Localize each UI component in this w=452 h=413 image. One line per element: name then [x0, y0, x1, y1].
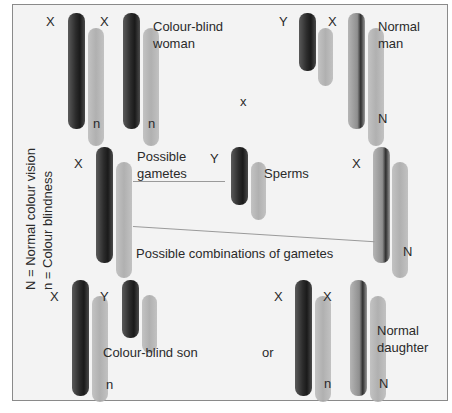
father-y-label: Y [279, 14, 288, 29]
cross-symbol: x [240, 94, 247, 109]
sperms-label: Sperms [264, 166, 309, 181]
son-x-allele: n [106, 377, 113, 392]
sperm-x-sister-chromatid [392, 162, 408, 278]
daughter-x1-label: X [274, 289, 283, 304]
daughter-x1-allele: n [324, 376, 331, 391]
father-x-label: X [328, 14, 337, 29]
daughter-label: Normal daughter [377, 322, 428, 356]
mother-x2-chromosome [123, 13, 140, 129]
mother-x2-label: X [100, 14, 109, 29]
daughter-x2-label: X [323, 289, 332, 304]
mother-x1-allele: n [93, 116, 100, 131]
sperm-x-allele: N [403, 244, 412, 259]
mother-label: Colour-blind woman [153, 18, 223, 52]
mother-x1-chromosome [68, 13, 85, 129]
egg-x-sister-chromatid [116, 162, 132, 278]
son-x-label: X [50, 289, 59, 304]
father-y-sister-chromatid [318, 28, 333, 86]
mother-x1-label: X [46, 14, 55, 29]
legend-normal: N = Normal colour vision [22, 148, 39, 290]
mother-x2-allele: n [148, 116, 155, 131]
daughter-x1-chromosome [295, 280, 312, 396]
sperm-x-label: X [352, 156, 361, 171]
possible-combinations-label: Possible combinations of gametes [136, 246, 333, 261]
son-x-chromosome [72, 280, 89, 396]
daughter-x2-allele: N [379, 376, 388, 391]
daughter-x2-chromosome [350, 280, 367, 396]
father-x-chromosome [348, 13, 365, 129]
sperm-y-label: Y [210, 151, 219, 166]
son-y-label: Y [100, 289, 109, 304]
sperm-y-chromosome [231, 147, 248, 205]
father-label: Normal man [378, 18, 420, 52]
son-y-chromosome [122, 280, 139, 338]
egg-x-chromosome [96, 147, 113, 263]
sperm-x-chromosome [373, 147, 390, 263]
son-label: Colour-blind son [103, 345, 198, 360]
legend-colour-blind: n = Colour blindness [39, 148, 56, 290]
father-x-allele: N [378, 111, 387, 126]
possible-gametes-label: Possible gametes [137, 148, 187, 182]
arrow-sperm-y-to-egg [133, 181, 225, 182]
or-label: or [262, 345, 274, 360]
egg-x-label: X [74, 156, 83, 171]
father-y-chromosome [299, 13, 316, 71]
legend: N = Normal colour vision n = Colour blin… [22, 148, 56, 290]
